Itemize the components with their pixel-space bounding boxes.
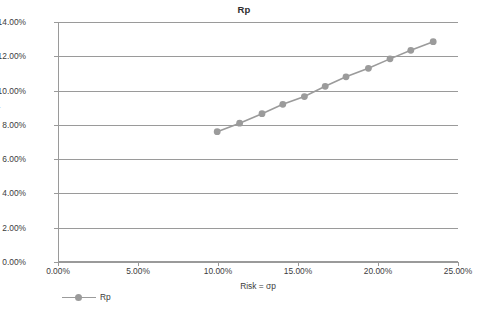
- x-tick-label: 20.00%: [364, 266, 392, 276]
- y-tick-label: 2.00%: [0, 223, 26, 233]
- data-point-marker: [407, 47, 414, 54]
- legend-dot-icon: [75, 294, 82, 301]
- data-point-marker: [214, 128, 221, 135]
- x-tick-label: 0.00%: [46, 266, 70, 276]
- x-tick-label: 10.00%: [204, 266, 232, 276]
- x-tick-label: 25.00%: [444, 266, 472, 276]
- series-plot: [58, 22, 458, 262]
- legend: Rp: [62, 292, 111, 302]
- x-tick-label: 15.00%: [284, 266, 312, 276]
- chart-title: Rp: [0, 4, 488, 15]
- plot-area: [58, 22, 458, 262]
- data-point-marker: [387, 55, 394, 62]
- gridline-y: [58, 262, 458, 263]
- data-point-marker: [343, 73, 350, 80]
- legend-label-rp: Rp: [100, 292, 111, 302]
- data-point-marker: [279, 101, 286, 108]
- y-tick-label: 14.00%: [0, 17, 26, 27]
- legend-marker-icon: [62, 292, 96, 302]
- y-tick-label: 8.00%: [0, 120, 26, 130]
- data-point-marker: [322, 83, 329, 90]
- y-tick-label: 6.00%: [0, 154, 26, 164]
- data-point-marker: [259, 110, 266, 117]
- y-tick-label: 4.00%: [0, 188, 26, 198]
- x-tick-label: 5.00%: [126, 266, 150, 276]
- data-point-marker: [301, 93, 308, 100]
- y-tick-label: 0.00%: [0, 257, 26, 267]
- y-tick-label: 12.00%: [0, 51, 26, 61]
- data-point-marker: [430, 38, 437, 45]
- data-point-marker: [365, 65, 372, 72]
- x-axis-title: Risk = σp: [58, 281, 458, 291]
- y-tick-label: 10.00%: [0, 86, 26, 96]
- data-point-marker: [236, 120, 243, 127]
- chart-root: Rp Return Rp 0.00%2.00%4.00%6.00%8.00%10…: [0, 0, 488, 319]
